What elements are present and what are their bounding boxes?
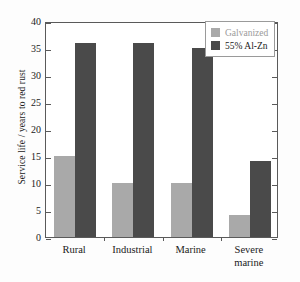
legend-swatch-al-zn-icon (211, 41, 220, 50)
bar-chart-figure: Service life / years to red rust 0510152… (0, 0, 300, 282)
x-axis-label-marine: Marine (162, 243, 220, 256)
bar-industrial-55-al-zn (133, 43, 154, 237)
chart-legend: Galvanized 55% Al-Zn (205, 21, 275, 57)
bar-industrial-galvanized (112, 183, 133, 237)
bar-rural-55-al-zn (75, 43, 96, 237)
y-tick-label: 30 (31, 70, 41, 81)
x-tick-mark (163, 237, 164, 241)
x-axis-label-line: Marine (162, 243, 220, 256)
x-axis-label-severe-marine: Severemarine (220, 243, 278, 269)
legend-label-al-zn: 55% Al-Zn (225, 41, 267, 51)
y-tick-label: 0 (36, 232, 41, 243)
y-tick-label: 5 (36, 205, 41, 216)
x-tick-mark (221, 237, 222, 241)
bar-rural-galvanized (54, 156, 75, 237)
y-tick-label: 15 (31, 151, 41, 162)
x-axis-label-line: marine (220, 256, 278, 269)
x-axis-label-line: Industrial (103, 243, 161, 256)
y-tick-mark (46, 239, 51, 240)
y-tick-label: 35 (31, 43, 41, 54)
y-tick-mark-right (272, 239, 277, 240)
y-axis-title: Service life / years to red rust (17, 27, 27, 227)
x-axis-label-rural: Rural (45, 243, 103, 256)
y-tick-label: 40 (31, 16, 41, 27)
bar-severe-marine-55-al-zn (250, 161, 271, 237)
y-tick-label: 20 (31, 124, 41, 135)
y-tick-label: 25 (31, 97, 41, 108)
x-tick-mark (104, 237, 105, 241)
x-axis-label-industrial: Industrial (103, 243, 161, 256)
y-tick-label: 10 (31, 178, 41, 189)
bar-marine-55-al-zn (192, 48, 213, 237)
legend-label-galvanized: Galvanized (225, 28, 268, 38)
x-axis-label-line: Rural (45, 243, 103, 256)
legend-item-galvanized: Galvanized (211, 26, 268, 39)
legend-item-al-zn: 55% Al-Zn (211, 39, 268, 52)
legend-swatch-galvanized-icon (211, 28, 220, 37)
x-axis-label-line: Severe (220, 243, 278, 256)
bar-severe-marine-galvanized (229, 215, 250, 237)
bar-marine-galvanized (171, 183, 192, 237)
